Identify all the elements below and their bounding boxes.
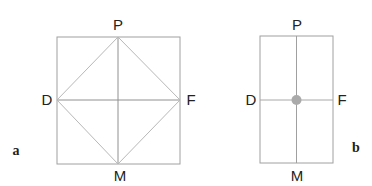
center-dot	[292, 95, 302, 105]
panel-label-b: b	[352, 140, 360, 155]
panel-label-a: a	[13, 143, 20, 158]
label-m: M	[114, 167, 127, 184]
label-f: F	[337, 91, 346, 108]
label-p: P	[292, 16, 302, 33]
label-d: D	[246, 91, 257, 108]
label-p: P	[113, 16, 123, 33]
label-m: M	[291, 167, 304, 184]
label-d: D	[42, 91, 53, 108]
panel-a: P D F M a	[13, 16, 196, 184]
panel-b: P D F M b	[246, 16, 361, 184]
label-f: F	[186, 91, 195, 108]
diagram-canvas: P D F M a P D F M b	[0, 0, 372, 186]
